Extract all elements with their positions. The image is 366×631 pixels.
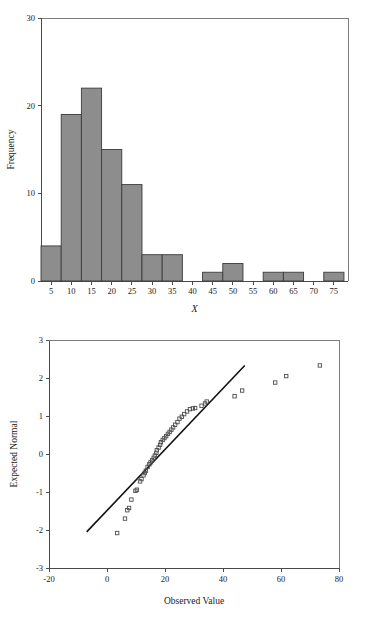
qq-x-tick-label: -20 bbox=[43, 574, 54, 584]
histogram-chart: 51015202530354045505560657075 0102030 X … bbox=[0, 0, 366, 325]
histogram-bar bbox=[283, 272, 303, 281]
qq-data-points bbox=[115, 364, 321, 535]
histogram-x-tick-label: 40 bbox=[188, 286, 197, 296]
histogram-bar bbox=[81, 88, 101, 281]
qq-y-tick-label: 2 bbox=[39, 373, 43, 383]
histogram-x-tick-label: 45 bbox=[208, 286, 217, 296]
histogram-y-tick-label: 10 bbox=[27, 188, 36, 198]
histogram-x-tick-label: 65 bbox=[289, 286, 298, 296]
qq-point-marker bbox=[274, 381, 277, 384]
histogram-x-tick-label: 25 bbox=[128, 286, 137, 296]
histogram-x-ticks: 51015202530354045505560657075 bbox=[49, 281, 338, 296]
qq-reference-line bbox=[87, 365, 245, 531]
histogram-x-tick-label: 15 bbox=[87, 286, 96, 296]
histogram-bars bbox=[41, 88, 344, 281]
histogram-bar bbox=[41, 246, 61, 281]
figure-sheet: 51015202530354045505560657075 0102030 X … bbox=[0, 0, 366, 631]
qq-point-marker bbox=[285, 374, 288, 377]
qq-point-marker bbox=[123, 517, 126, 520]
qq-plot-panel: -20020406080 -3-2-10123 Observed Value E… bbox=[0, 325, 366, 631]
qq-point-marker bbox=[130, 498, 133, 501]
histogram-y-tick-label: 30 bbox=[27, 13, 36, 23]
histogram-x-tick-label: 20 bbox=[107, 286, 116, 296]
qq-point-marker bbox=[233, 395, 236, 398]
histogram-y-tick-label: 0 bbox=[31, 276, 35, 286]
histogram-bar bbox=[122, 185, 142, 281]
histogram-bar bbox=[223, 263, 243, 281]
histogram-x-tick-label: 60 bbox=[269, 286, 278, 296]
qq-y-tick-label: 0 bbox=[39, 449, 43, 459]
histogram-bar bbox=[162, 255, 182, 281]
qq-x-tick-label: 80 bbox=[335, 574, 344, 584]
histogram-bar bbox=[203, 272, 223, 281]
histogram-bar bbox=[102, 150, 122, 282]
qq-x-tick-label: 40 bbox=[219, 574, 228, 584]
histogram-x-tick-label: 30 bbox=[148, 286, 157, 296]
qq-y-tick-label: -1 bbox=[36, 487, 43, 497]
qq-x-axis-title: Observed Value bbox=[164, 596, 224, 606]
qq-y-axis-title: Expected Normal bbox=[9, 420, 19, 487]
histogram-x-tick-label: 55 bbox=[249, 286, 258, 296]
qq-y-tick-label: -2 bbox=[36, 525, 43, 535]
qq-x-tick-label: 0 bbox=[105, 574, 109, 584]
histogram-x-tick-label: 10 bbox=[67, 286, 76, 296]
histogram-x-tick-label: 70 bbox=[309, 286, 318, 296]
qq-plot-chart: -20020406080 -3-2-10123 Observed Value E… bbox=[0, 325, 366, 631]
histogram-bar bbox=[324, 272, 344, 281]
qq-point-marker bbox=[240, 389, 243, 392]
histogram-panel: 51015202530354045505560657075 0102030 X … bbox=[0, 0, 366, 325]
qq-x-tick-label: 20 bbox=[161, 574, 170, 584]
histogram-bar bbox=[61, 114, 81, 281]
qq-point-marker bbox=[318, 364, 321, 367]
qq-x-ticks: -20020406080 bbox=[43, 568, 343, 584]
qq-y-ticks: -3-2-10123 bbox=[36, 335, 49, 573]
qq-y-tick-label: -3 bbox=[36, 563, 43, 573]
qq-y-tick-label: 3 bbox=[39, 335, 43, 345]
histogram-x-tick-label: 50 bbox=[229, 286, 238, 296]
qq-point-marker bbox=[200, 404, 203, 407]
qq-point-marker bbox=[115, 531, 118, 534]
histogram-x-axis-title: X bbox=[190, 303, 198, 314]
qq-y-tick-label: 1 bbox=[39, 411, 43, 421]
histogram-x-tick-label: 75 bbox=[330, 286, 339, 296]
qq-x-tick-label: 60 bbox=[277, 574, 286, 584]
histogram-y-axis-title: Frequency bbox=[6, 129, 16, 169]
histogram-x-tick-label: 35 bbox=[168, 286, 177, 296]
histogram-y-tick-label: 20 bbox=[27, 101, 36, 111]
histogram-bar bbox=[142, 255, 162, 281]
histogram-y-ticks: 0102030 bbox=[27, 13, 42, 286]
histogram-bar bbox=[263, 272, 283, 281]
histogram-x-tick-label: 5 bbox=[49, 286, 53, 296]
